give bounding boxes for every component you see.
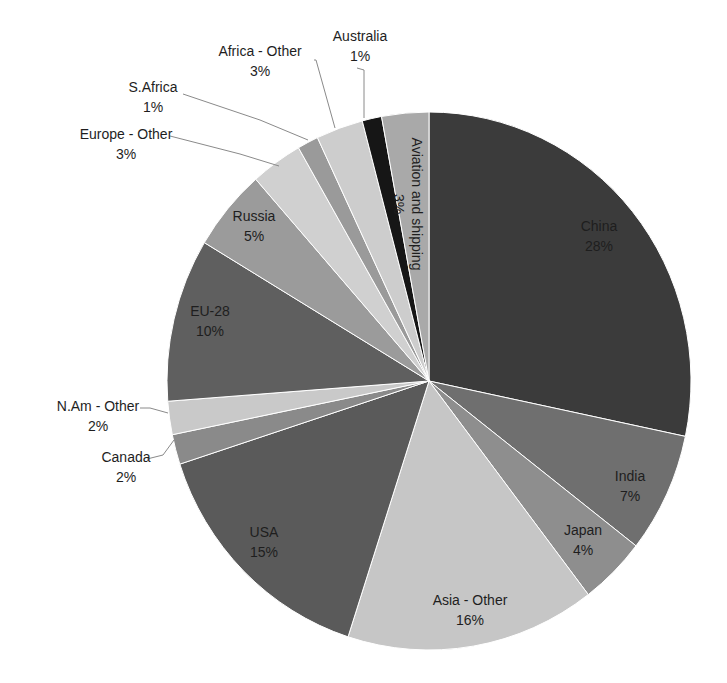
label-percent: 7% bbox=[620, 488, 640, 504]
leader-line-australia bbox=[357, 68, 364, 118]
leader-line-n-am-other bbox=[140, 408, 168, 413]
label-canada: Canada2% bbox=[101, 449, 150, 485]
label-s-africa: S.Africa1% bbox=[128, 79, 177, 115]
label-name: China bbox=[581, 218, 618, 234]
pie-chart: China28%India7%Japan4%Asia - Other16%USA… bbox=[0, 0, 727, 683]
label-name: S.Africa bbox=[128, 79, 177, 95]
label-percent: 5% bbox=[244, 228, 264, 244]
label-name: EU-28 bbox=[190, 303, 230, 319]
label-percent: 2% bbox=[88, 418, 108, 434]
label-percent: 3% bbox=[116, 146, 136, 162]
label-name: Canada bbox=[101, 449, 150, 465]
leader-line-africa-other bbox=[314, 60, 335, 128]
label-name: Australia bbox=[333, 28, 388, 44]
label-percent: 4% bbox=[573, 542, 593, 558]
label-percent: 3% bbox=[391, 194, 407, 214]
leader-line-europe-other bbox=[170, 136, 279, 166]
leader-line-s-africa bbox=[183, 94, 308, 140]
label-percent: 16% bbox=[456, 612, 484, 628]
label-europe-other: Europe - Other3% bbox=[80, 126, 173, 162]
leader-line-canada bbox=[147, 440, 174, 459]
label-name: N.Am - Other bbox=[57, 398, 140, 414]
label-name: Asia - Other bbox=[433, 592, 508, 608]
slice-china bbox=[429, 112, 691, 436]
label-percent: 15% bbox=[250, 544, 278, 560]
label-name: USA bbox=[250, 524, 279, 540]
label-name: Africa - Other bbox=[218, 43, 302, 59]
label-n-am-other: N.Am - Other2% bbox=[57, 398, 140, 434]
label-percent: 1% bbox=[350, 48, 370, 64]
label-name: Russia bbox=[233, 208, 276, 224]
label-percent: 1% bbox=[143, 99, 163, 115]
label-africa-other: Africa - Other3% bbox=[218, 43, 302, 79]
label-percent: 28% bbox=[585, 238, 613, 254]
pie-slices bbox=[167, 112, 691, 650]
label-percent: 2% bbox=[116, 469, 136, 485]
label-name: India bbox=[615, 468, 646, 484]
label-name: Japan bbox=[564, 522, 602, 538]
label-name: Aviation and shipping bbox=[409, 138, 425, 271]
label-percent: 3% bbox=[250, 63, 270, 79]
label-percent: 10% bbox=[196, 323, 224, 339]
label-australia: Australia1% bbox=[333, 28, 388, 64]
label-name: Europe - Other bbox=[80, 126, 173, 142]
